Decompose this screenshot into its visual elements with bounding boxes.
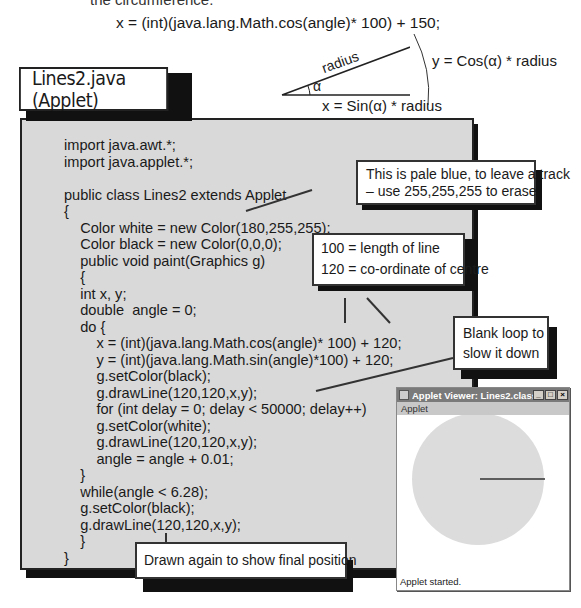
callout-pale-blue: This is pale blue, to leave a track – us… bbox=[356, 160, 536, 205]
circle-drawing bbox=[397, 415, 569, 575]
callout-blank-loop: Blank loop to slow it down bbox=[453, 316, 549, 370]
applet-window-icon bbox=[399, 390, 409, 400]
close-button[interactable]: × bbox=[557, 390, 568, 400]
applet-titlebar[interactable]: Applet Viewer: Lines2.class _ □ × bbox=[397, 388, 569, 402]
callout-text: Blank loop to bbox=[463, 323, 539, 343]
applet-title: Applet Viewer: Lines2.class bbox=[412, 390, 533, 401]
maximize-button[interactable]: □ bbox=[545, 390, 556, 400]
applet-canvas bbox=[397, 415, 569, 575]
callout-text: 120 = co-ordinate of centre bbox=[321, 259, 456, 280]
applet-status: Applet started. bbox=[400, 576, 461, 587]
callout-text: slow it down bbox=[463, 343, 539, 363]
applet-menu[interactable]: Applet bbox=[397, 402, 569, 415]
callout-text: – use 255,255,255 to erase bbox=[366, 183, 526, 200]
callout-text: This is pale blue, to leave a track bbox=[366, 166, 526, 183]
callout-drawn-again: Drawn again to show final position bbox=[135, 542, 347, 579]
minimize-button[interactable]: _ bbox=[533, 390, 544, 400]
callout-text: Drawn again to show final position bbox=[144, 547, 338, 574]
callout-length: 100 = length of line 120 = co-ordinate o… bbox=[312, 233, 465, 286]
callout-text: 100 = length of line bbox=[321, 238, 456, 259]
applet-viewer-window[interactable]: Applet Viewer: Lines2.class _ □ × Applet… bbox=[396, 387, 570, 591]
